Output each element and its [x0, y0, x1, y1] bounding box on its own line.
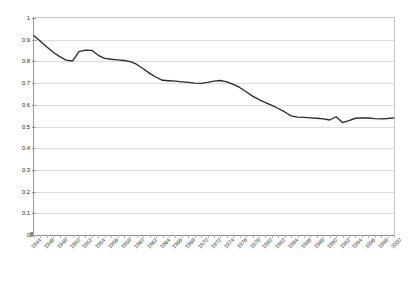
x-axis-label-1960: 1960: [133, 237, 145, 249]
chart-canvas: 00.10.20.30.40.50.60.70.80.91 1944194619…: [0, 0, 417, 281]
x-axis-label-1978: 1978: [248, 237, 260, 249]
y-axis-label-0.2: 0.2: [22, 189, 30, 195]
x-axis-label-1998: 1998: [377, 237, 389, 249]
y-axis-label-1: 1: [27, 15, 30, 21]
y-axis-label-0.1: 0.1: [22, 210, 30, 216]
x-axis-label-1976: 1976: [235, 237, 247, 249]
x-axis-label-1944: 1944: [30, 237, 42, 249]
y-axis-label-0.8: 0.8: [22, 58, 30, 64]
x-axis-label-1988: 1988: [313, 237, 325, 249]
x-axis-label-1962: 1962: [145, 237, 157, 249]
x-axis-label-1946: 1946: [43, 237, 55, 249]
x-axis-label-1996: 1996: [364, 237, 376, 249]
plot-area: 00.10.20.30.40.50.60.70.80.91: [33, 17, 395, 236]
y-axis-label-0.9: 0.9: [22, 37, 30, 43]
x-axis-label-1982: 1982: [274, 237, 286, 249]
x-axis-label-1958: 1958: [120, 237, 132, 249]
x-axis-label-1986: 1986: [300, 237, 312, 249]
x-axis-label-2000: 2000: [390, 237, 402, 249]
x-axis-label-1994: 1994: [351, 237, 363, 249]
x-axis-label-1954: 1954: [94, 237, 106, 249]
x-axis-label-1972: 1972: [210, 237, 222, 249]
x-axis-label-1974: 1974: [223, 237, 235, 249]
x-axis-label-1948: 1948: [55, 237, 67, 249]
x-axis-label-1964: 1964: [158, 237, 170, 249]
series-1-line: [34, 36, 394, 123]
x-axis-label-1956: 1956: [107, 237, 119, 249]
y-axis-label-0.3: 0.3: [22, 167, 30, 173]
x-axis-label-1984: 1984: [287, 237, 299, 249]
x-axis-label-1970: 1970: [197, 237, 209, 249]
x-axis-label-1966: 1966: [171, 237, 183, 249]
x-axis-labels-group: 1944194619481950195219541956195819601962…: [33, 237, 395, 281]
x-axis-label-1968: 1968: [184, 237, 196, 249]
x-axis-label-1950: 1950: [68, 237, 80, 249]
y-axis-label-0.7: 0.7: [22, 80, 30, 86]
y-axis-label-0.6: 0.6: [22, 102, 30, 108]
y-axis-label-0.5: 0.5: [22, 124, 30, 130]
series-line-svg: [34, 18, 394, 235]
y-axis-label-0.4: 0.4: [22, 145, 30, 151]
x-axis-label-1980: 1980: [261, 237, 273, 249]
x-axis-label-1990: 1990: [325, 237, 337, 249]
x-axis-label-1992: 1992: [338, 237, 350, 249]
x-axis-label-1952: 1952: [81, 237, 93, 249]
